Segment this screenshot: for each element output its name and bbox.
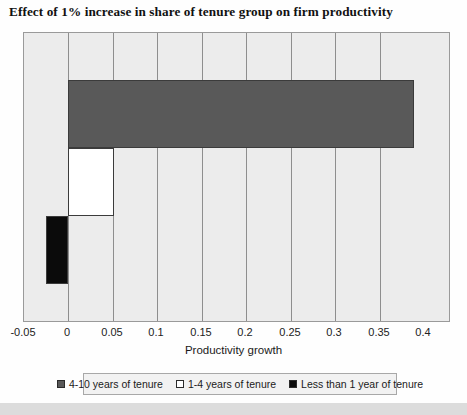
xtick-label-1: 0 (45, 326, 89, 338)
legend-label-less-than-1-year: Less than 1 year of tenure (301, 378, 423, 390)
bar-1-4-years (68, 148, 114, 216)
bar-less-than-1-year (46, 216, 68, 284)
gridline-2 (157, 33, 158, 321)
legend-entry-4-10-years: 4-10 years of tenure (57, 378, 163, 390)
gridline-6 (335, 33, 336, 321)
legend-label-4-10-years: 4-10 years of tenure (69, 378, 163, 390)
legend-swatch-icon-less-than-1-year (289, 380, 297, 388)
legend-entry-less-than-1-year: Less than 1 year of tenure (289, 378, 423, 390)
x-axis-title: Productivity growth (0, 344, 467, 356)
gridline-5 (291, 33, 292, 321)
xtick-label-3: 0.1 (134, 326, 178, 338)
xtick-label-2: 0.05 (90, 326, 134, 338)
bar-4-10-years (68, 80, 414, 148)
xtick-label-0: -0.05 (1, 326, 45, 338)
plot-area (23, 32, 450, 322)
legend-entry-1-4-years: 1-4 years of tenure (176, 378, 276, 390)
gridline-4 (246, 33, 247, 321)
chart-title: Effect of 1% increase in share of tenure… (9, 4, 459, 20)
gridline-7 (380, 33, 381, 321)
legend-swatch-icon-1-4-years (176, 380, 184, 388)
xtick-label-6: 0.25 (268, 326, 312, 338)
xtick-label-4: 0.15 (179, 326, 223, 338)
xtick-label-5: 0.2 (223, 326, 267, 338)
bottom-strip (0, 403, 467, 415)
xtick-label-8: 0.35 (357, 326, 401, 338)
gridline-3 (202, 33, 203, 321)
xtick-label-9: 0.4 (401, 326, 445, 338)
legend-swatch-icon-4-10-years (57, 380, 65, 388)
chart-page: Effect of 1% increase in share of tenure… (0, 0, 467, 415)
legend-label-1-4-years: 1-4 years of tenure (188, 378, 276, 390)
xtick-label-7: 0.3 (312, 326, 356, 338)
chart-legend: 4-10 years of tenure 1-4 years of tenure… (83, 373, 397, 395)
